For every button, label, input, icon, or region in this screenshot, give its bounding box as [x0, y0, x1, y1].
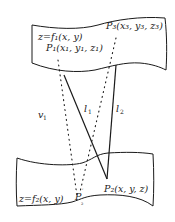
upper-surface-bottom-edge — [32, 63, 166, 72]
svg-text:1: 1 — [88, 108, 92, 115]
upper-surface-right-edge — [165, 18, 167, 70]
point-p3-label: P₃(x₃, y₃, z₃) — [105, 20, 163, 31]
label-v1: v 1 — [38, 109, 47, 121]
point-p1-label: P₁(x₁, y₁, z₁) — [45, 42, 103, 53]
svg-text:1: 1 — [43, 114, 47, 121]
surface-distance-diagram: z=f₁(x, y) P₁(x₁, y₁, z₁) P₃(x₃, y₃, z₃)… — [0, 0, 175, 222]
svg-text:l: l — [116, 103, 119, 114]
dotted-line-p3-to-p2prime — [80, 38, 116, 192]
label-l2: l 2 — [116, 103, 124, 115]
svg-text:2: 2 — [120, 108, 124, 115]
lower-surface-right-edge — [153, 154, 154, 206]
line-l1 — [64, 75, 107, 179]
upper-surface-equation-label: z=f₁(x, y) — [37, 31, 83, 42]
label-l1: l 1 — [84, 103, 92, 115]
svg-text:′: ′ — [82, 187, 84, 194]
lower-surface-equation-label: z=f₂(x, y) — [18, 193, 64, 204]
solid-lines — [64, 65, 116, 179]
svg-text:l: l — [84, 103, 87, 114]
lower-surface-top-edge — [17, 152, 153, 165]
svg-text:₂: ₂ — [81, 199, 84, 206]
point-p2prime-label: P ′ ₂ — [74, 187, 84, 206]
lower-surface-left-edge — [16, 158, 17, 206]
line-l2 — [107, 65, 116, 179]
dotted-line-p1-to-p2prime — [58, 60, 77, 196]
point-p2-label: P₂(x, y, z) — [103, 183, 148, 194]
